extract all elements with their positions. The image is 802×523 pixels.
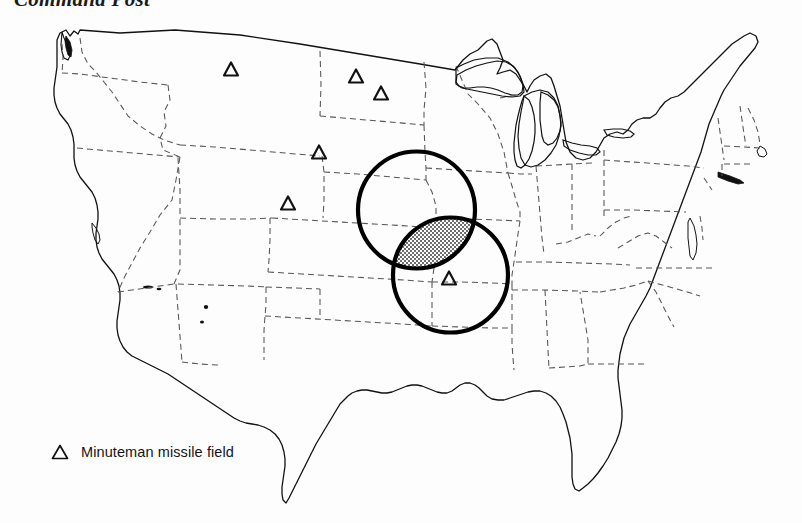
border-il-in	[536, 166, 544, 254]
border-sc-nc	[648, 281, 700, 296]
border-wa-id	[62, 44, 63, 73]
border-ne-ks	[272, 218, 436, 228]
border-ny-vt	[718, 118, 724, 160]
triangle-marker-icon	[50, 443, 70, 461]
olympic-peninsula-detail	[65, 36, 72, 57]
border-nm-co	[178, 284, 268, 287]
coverage-circles-group	[358, 152, 508, 333]
state-boundaries-group	[62, 38, 760, 370]
triangle-marker-icon[interactable]	[442, 272, 456, 285]
border-id-west	[160, 85, 180, 157]
border-mt-nd	[320, 51, 321, 116]
channel-islands	[143, 285, 208, 323]
border-mn-wi	[456, 66, 508, 173]
triangle-marker-icon[interactable]	[349, 70, 363, 83]
border-ma-north	[724, 146, 760, 148]
border-wy-east	[322, 156, 324, 218]
border-vt-nh	[740, 106, 746, 146]
border-wv-oh	[600, 216, 632, 236]
legend: Minuteman missile field	[50, 443, 234, 461]
triangle-marker-icon[interactable]	[374, 87, 388, 100]
border-nm-tx	[264, 287, 266, 360]
long-island	[718, 172, 744, 184]
border-ut-az	[174, 218, 180, 284]
border-ga-sc	[648, 281, 674, 327]
border-az-south	[182, 362, 218, 365]
chesapeake-bay	[688, 218, 697, 260]
border-pa-md	[604, 210, 686, 212]
border-ky-oh	[556, 234, 596, 244]
border-sd-ne	[324, 172, 426, 180]
border-il-ia	[508, 173, 520, 221]
border-wy-co	[180, 218, 272, 219]
border-nh-me	[748, 108, 760, 144]
border-va-wv	[618, 233, 672, 248]
border-mt-wy	[180, 145, 320, 156]
border-ms-al	[545, 290, 549, 368]
michigan-upper-peninsula	[456, 58, 524, 97]
border-ky-tn	[516, 262, 630, 265]
border-ok-tx	[265, 316, 432, 326]
border-or-ca	[77, 148, 180, 157]
border-nj-ny	[704, 178, 712, 190]
lake-ontario	[604, 129, 634, 138]
border-la-ms	[512, 328, 514, 370]
border-mn-ia	[426, 168, 508, 173]
triangle-marker-icon[interactable]	[281, 197, 295, 210]
border-az-nm	[176, 284, 182, 362]
border-nv-ca	[118, 157, 180, 292]
triangle-marker-icon[interactable]	[312, 146, 326, 159]
border-mo-il	[512, 221, 520, 284]
figure-container: Command Post	[0, 0, 802, 523]
border-ks-ok	[268, 272, 432, 282]
lake-michigan	[514, 96, 535, 168]
border-nd-mn	[424, 62, 426, 125]
border-co-ks	[268, 218, 270, 272]
border-al-ga	[549, 292, 588, 368]
border-wa-or	[62, 73, 168, 85]
border-tn-nc	[600, 281, 648, 292]
triangle-marker-icon[interactable]	[224, 63, 238, 76]
border-md-de	[700, 216, 703, 240]
legend-label: Minuteman missile field	[81, 444, 234, 460]
border-pa-ny	[604, 160, 704, 168]
border-tn-ms	[512, 290, 600, 292]
border-nd-sd	[320, 116, 424, 125]
border-wi-il	[508, 173, 532, 174]
border-ok-panhandle	[266, 287, 320, 289]
border-mi-in	[536, 163, 592, 166]
